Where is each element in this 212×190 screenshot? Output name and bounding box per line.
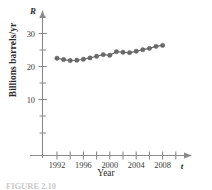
data-point bbox=[88, 56, 92, 60]
y-axis-tick-labels: 30 20 10 bbox=[27, 30, 35, 105]
data-point bbox=[94, 54, 98, 58]
x-axis-label: Year bbox=[0, 168, 212, 178]
chart-canvas: 30 20 10 1992 1996 2000 2004 2008 R t bbox=[0, 0, 212, 190]
y-tick-label-10: 10 bbox=[27, 96, 35, 105]
data-point bbox=[147, 46, 151, 50]
data-point bbox=[114, 49, 118, 53]
data-point bbox=[154, 44, 158, 48]
y-tick-label-20: 20 bbox=[27, 63, 35, 72]
x-axis-arrowhead bbox=[184, 153, 192, 159]
data-points-group bbox=[55, 43, 165, 63]
figure-caption: FIGURE 2.10 bbox=[6, 181, 56, 190]
data-point bbox=[121, 50, 125, 54]
y-axis-label: Billions barrels/yr bbox=[8, 0, 18, 120]
y-tick-label-30: 30 bbox=[27, 30, 35, 39]
data-point bbox=[81, 57, 85, 61]
y-axis-variable-symbol: R bbox=[29, 6, 36, 16]
data-point bbox=[108, 53, 112, 57]
data-point bbox=[101, 52, 105, 56]
data-point bbox=[55, 56, 59, 60]
data-point bbox=[61, 57, 65, 61]
data-point bbox=[127, 50, 131, 54]
axes-group bbox=[30, 10, 192, 158]
data-point bbox=[141, 47, 145, 51]
data-point bbox=[75, 58, 79, 62]
data-point bbox=[134, 49, 138, 53]
data-point bbox=[160, 43, 164, 47]
data-point bbox=[68, 58, 72, 62]
